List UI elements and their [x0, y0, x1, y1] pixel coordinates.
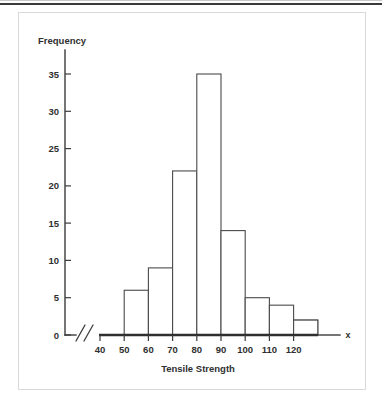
bar-90-100	[245, 298, 269, 335]
y-tick-label-25: 25	[48, 143, 59, 154]
x-tick-label-80: 80	[192, 344, 203, 355]
y-tick-label-0: 0	[54, 330, 59, 341]
bar-50-60	[148, 268, 172, 335]
bar-group	[124, 74, 318, 335]
top-rule-hairline	[0, 0, 382, 1]
x-tick-label-100: 100	[237, 344, 253, 355]
bar-80-90	[221, 231, 245, 335]
y-tick-label-5: 5	[54, 292, 60, 303]
axis-break-icon	[76, 325, 93, 341]
y-tick-label-30: 30	[48, 106, 59, 117]
x-axis-variable-symbol: x	[345, 330, 350, 340]
y-axis-label: Frequency	[38, 35, 87, 46]
top-rule	[0, 3, 382, 5]
histogram-chart: Frequency 0 5 10 15 20 25 30 35	[18, 12, 366, 390]
y-tick-label-35: 35	[48, 69, 59, 80]
x-tick-label-120: 120	[286, 344, 302, 355]
bar-70-80	[197, 74, 221, 335]
bar-100-110	[269, 305, 293, 335]
bar-60-70	[173, 171, 197, 335]
bar-120-130	[294, 320, 318, 335]
y-tick-label-20: 20	[48, 180, 59, 191]
x-tick-label-60: 60	[143, 344, 154, 355]
x-tick-label-40: 40	[95, 344, 106, 355]
x-tick-group: 40 50 60 70 80 90 100 110 120	[95, 335, 302, 355]
x-tick-label-50: 50	[119, 344, 130, 355]
figure-page: Frequency 0 5 10 15 20 25 30 35	[0, 0, 382, 408]
y-tick-label-10: 10	[48, 255, 59, 266]
bar-40-50	[124, 290, 148, 335]
x-tick-label-90: 90	[216, 344, 227, 355]
x-axis-label: Tensile Strength	[161, 363, 235, 374]
x-tick-label-70: 70	[167, 344, 178, 355]
y-tick-group: 0 5 10 15 20 25 30 35	[48, 69, 71, 341]
x-tick-label-110: 110	[262, 344, 277, 355]
y-tick-label-15: 15	[48, 218, 59, 229]
